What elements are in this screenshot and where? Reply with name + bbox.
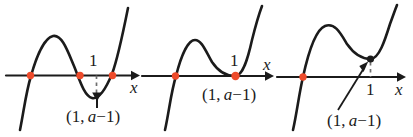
x-axis-middle bbox=[142, 71, 274, 80]
cubic-cases-figure: 1 x (1, a−1) 1 x (1, a−1) bbox=[0, 0, 413, 137]
tick-label-one-middle: 1 bbox=[230, 52, 239, 69]
vertex-dot-right bbox=[367, 55, 374, 62]
root-dot bbox=[109, 72, 116, 79]
point-label-close: −1) bbox=[96, 107, 120, 126]
root-dot bbox=[76, 72, 83, 79]
panel-middle: 1 x (1, a−1) bbox=[140, 0, 275, 137]
vertex-annotation-arrow-right bbox=[338, 62, 368, 111]
cubic-curve-middle bbox=[165, 6, 262, 130]
root-dot bbox=[299, 73, 306, 80]
root-dot bbox=[27, 72, 34, 79]
x-axis-left bbox=[6, 71, 140, 80]
vertex-annotation-arrow-left bbox=[92, 93, 102, 109]
tick-label-one-right: 1 bbox=[366, 81, 375, 98]
axis-label-x-middle: x bbox=[263, 56, 271, 73]
axis-label-x-right: x bbox=[395, 81, 403, 98]
tangent-root-dot bbox=[231, 72, 239, 80]
axis-label-x-left: x bbox=[130, 79, 138, 96]
tick-label-one-left: 1 bbox=[89, 52, 98, 69]
root-dot bbox=[172, 72, 179, 79]
point-label-close: −1) bbox=[357, 111, 381, 130]
panel-middle-graphic bbox=[140, 0, 275, 137]
point-label-left: (1, a−1) bbox=[66, 108, 120, 125]
panel-left: 1 x (1, a−1) bbox=[0, 0, 140, 137]
x-axis-right bbox=[277, 72, 406, 81]
point-label-open: (1, bbox=[66, 107, 88, 126]
panel-right: 1 x (1, a−1) bbox=[275, 0, 413, 137]
point-label-middle: (1, a−1) bbox=[202, 86, 256, 103]
point-label-close: −1) bbox=[232, 85, 256, 104]
point-label-open: (1, bbox=[327, 111, 349, 130]
point-label-right: (1, a−1) bbox=[327, 112, 381, 129]
point-label-open: (1, bbox=[202, 85, 224, 104]
